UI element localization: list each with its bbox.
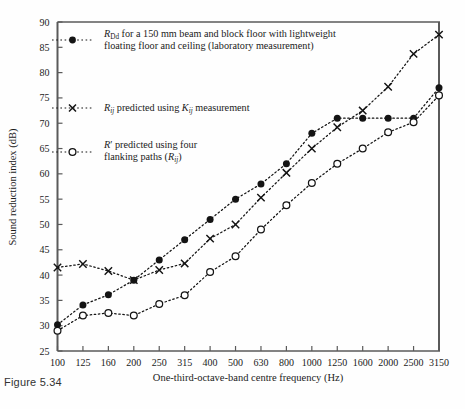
x-tick-label: 630 <box>253 357 268 368</box>
data-point <box>79 301 86 308</box>
data-point <box>257 180 264 187</box>
data-point <box>283 169 290 176</box>
data-point <box>359 145 366 152</box>
data-point <box>181 260 188 267</box>
data-point <box>207 269 214 276</box>
legend: RDd for a 150 mm beam and block floor wi… <box>52 28 336 164</box>
y-tick-label: 90 <box>40 17 50 28</box>
legend-entry-rprime[interactable]: R′ predicted using four flanking paths (… <box>52 139 198 164</box>
series-line <box>58 95 440 330</box>
data-point <box>359 115 366 122</box>
data-point <box>105 310 112 317</box>
data-point <box>54 327 61 334</box>
y-tick-label: 45 <box>40 244 50 255</box>
y-tick-label: 80 <box>40 67 50 78</box>
x-tick-label: 1000 <box>302 357 322 368</box>
series-filled-circle <box>54 84 443 328</box>
y-axis-ticks: 2530354045505560657075808590 <box>40 17 63 357</box>
x-tick-label: 250 <box>152 357 167 368</box>
x-tick-label: 160 <box>101 357 116 368</box>
x-tick-label: 200 <box>126 357 141 368</box>
data-point <box>79 260 86 267</box>
x-tick-label: 2500 <box>404 357 424 368</box>
data-point <box>207 216 214 223</box>
y-tick-label: 85 <box>40 42 50 53</box>
x-tick-label: 1250 <box>327 357 347 368</box>
data-point <box>385 129 392 136</box>
data-point <box>130 312 137 319</box>
x-tick-label: 800 <box>279 357 294 368</box>
y-tick-label: 65 <box>40 143 50 154</box>
y-tick-label: 35 <box>40 295 50 306</box>
data-point <box>410 119 417 126</box>
data-point <box>206 235 213 242</box>
data-point <box>308 145 315 152</box>
x-tick-label: 500 <box>228 357 243 368</box>
data-point <box>105 291 112 298</box>
x-tick-label: 315 <box>177 357 192 368</box>
data-point <box>232 253 239 260</box>
data-point <box>156 256 163 263</box>
data-point <box>232 221 239 228</box>
series-line <box>58 88 440 325</box>
x-tick-label: 1600 <box>353 357 373 368</box>
legend-label-rdd-line2: floating floor and ceiling (laboratory m… <box>104 40 314 52</box>
data-point <box>410 50 417 57</box>
data-point <box>359 107 366 114</box>
legend-entry-rij[interactable]: Rij predicted using Kij measurement <box>52 102 250 115</box>
figure-caption: Figure 5.34 <box>4 376 62 388</box>
data-point <box>334 124 341 131</box>
data-point <box>283 202 290 209</box>
x-axis-title: One-third-octave-band centre frequency (… <box>153 372 344 384</box>
data-point <box>436 92 443 99</box>
x-tick-label: 2000 <box>378 357 398 368</box>
sound-reduction-index-chart: 2530354045505560657075808590 10012516020… <box>0 0 465 409</box>
legend-entry-rdd[interactable]: RDd for a 150 mm beam and block floor wi… <box>52 28 336 52</box>
y-tick-label: 50 <box>40 219 50 230</box>
x-axis-ticks: 1001251602002503154005006308001000125016… <box>50 346 449 368</box>
data-point <box>181 292 188 299</box>
y-tick-label: 25 <box>40 346 50 357</box>
figure-container: 2530354045505560657075808590 10012516020… <box>0 0 465 409</box>
x-tick-label: 100 <box>50 357 65 368</box>
data-point <box>334 115 341 122</box>
y-tick-label: 30 <box>40 320 50 331</box>
y-axis-title: Sound reduction index (dB) <box>7 128 19 245</box>
data-point <box>283 160 290 167</box>
data-point <box>232 196 239 203</box>
axis-lines <box>58 22 441 351</box>
series-open-circle <box>54 92 442 334</box>
data-point <box>181 236 188 243</box>
data-point <box>257 194 264 201</box>
data-point <box>156 266 163 273</box>
x-tick-label: 400 <box>203 357 218 368</box>
data-point <box>436 84 443 91</box>
data-point <box>334 160 341 167</box>
y-tick-label: 55 <box>40 194 50 205</box>
legend-label-rprime-line1: R′ predicted using four <box>103 139 198 150</box>
y-tick-label: 60 <box>40 168 50 179</box>
data-point <box>258 226 265 233</box>
y-tick-label: 40 <box>40 270 50 281</box>
data-series-layer <box>54 31 443 334</box>
x-tick-label: 125 <box>75 357 90 368</box>
legend-label-rij: Rij predicted using Kij measurement <box>103 102 250 115</box>
data-point <box>80 312 87 319</box>
y-tick-label: 75 <box>40 92 50 103</box>
data-point <box>385 115 392 122</box>
legend-label-rprime-line2: flanking paths (Rij) <box>104 151 182 164</box>
data-point <box>308 180 315 187</box>
y-tick-label: 70 <box>40 118 50 129</box>
data-point <box>308 130 315 137</box>
x-tick-label: 3150 <box>429 357 449 368</box>
data-point <box>384 83 391 90</box>
data-point <box>156 301 163 308</box>
data-point <box>105 267 112 274</box>
